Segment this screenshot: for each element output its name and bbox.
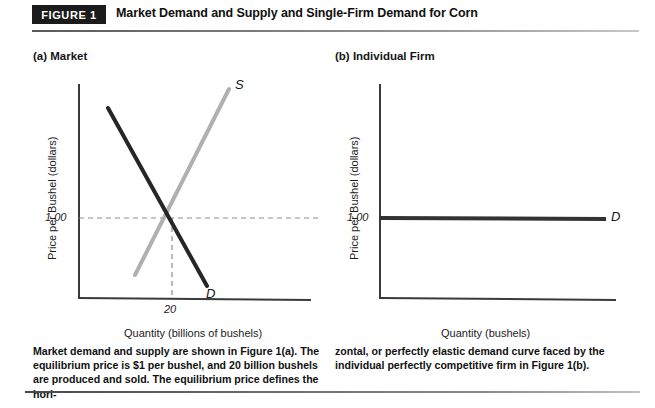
demand-curve-firm [380, 218, 606, 219]
demand-curve-market-label: D [206, 286, 215, 301]
bottom-divider [25, 391, 640, 393]
panel-a-x-axis-label: Quantity (billions of bushels) [124, 327, 262, 339]
panel-a-y-axis-label: Price per Bushel (dollars) [46, 137, 58, 261]
caption-column-right: zontal, or perfectly elastic demand curv… [335, 344, 635, 372]
demand-curve-market [108, 108, 207, 286]
demand-curve-firm-label: D [611, 209, 620, 224]
panel-a-x-tick-label: 20 [164, 303, 176, 315]
panel-b-x-axis-label: Quantity (bushels) [441, 327, 530, 339]
panel-b-y-axis-label: Price per Bushel (dollars) [348, 137, 360, 261]
panel-a-x-axis [78, 298, 311, 300]
panel-b-y-tick-label: 1.00 [347, 211, 368, 223]
panel-a-y-tick-label: 1.00 [45, 211, 66, 223]
panel-b-title: (b) Individual Firm [335, 50, 435, 62]
supply-curve-label: S [235, 77, 244, 92]
panel-b-x-axis [379, 298, 616, 300]
